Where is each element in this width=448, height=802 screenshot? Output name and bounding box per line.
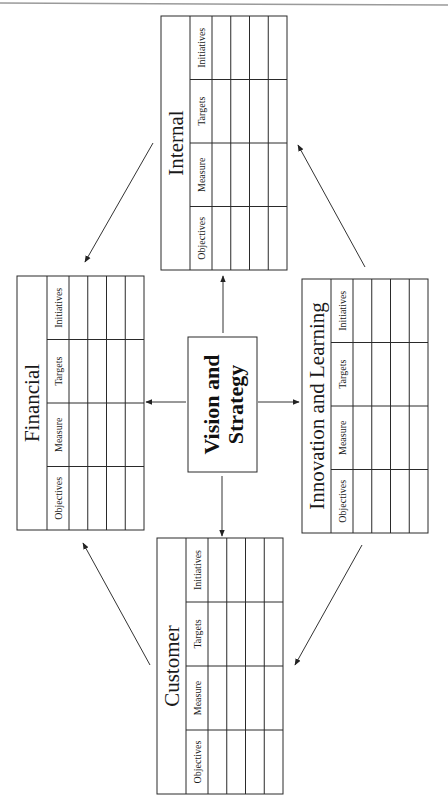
vision-strategy-box: Vision and Strategy	[188, 337, 257, 472]
vision-line-2: Strategy	[223, 365, 248, 444]
perspective-internal: InternalObjectivesMeasureTargetsInitiati…	[161, 16, 287, 270]
column-header-targets: Targets	[196, 97, 207, 126]
perspective-innovation: Innovation and LearningObjectivesMeasure…	[302, 279, 428, 533]
column-header-measure: Measure	[196, 157, 207, 192]
column-header-targets: Targets	[337, 360, 348, 389]
column-header-objectives: Objectives	[192, 741, 203, 784]
arrow-financial-to-customer	[83, 543, 150, 665]
perspective-title: Innovation and Learning	[305, 302, 329, 510]
perspective-customer: CustomerObjectivesMeasureTargetsInitiati…	[157, 538, 283, 794]
column-header-initiatives: Initiatives	[53, 288, 64, 328]
column-header-measure: Measure	[337, 420, 348, 455]
column-header-initiatives: Initiatives	[192, 550, 203, 590]
column-header-targets: Targets	[53, 357, 64, 386]
vision-line-1: Vision and	[199, 354, 224, 454]
column-header-objectives: Objectives	[53, 477, 64, 520]
perspective-title: Internal	[164, 110, 188, 175]
column-header-targets: Targets	[192, 619, 203, 648]
column-header-initiatives: Initiatives	[196, 28, 207, 68]
arrow-innovation-to-internal	[298, 145, 365, 267]
balanced-scorecard-diagram: InternalObjectivesMeasureTargetsInitiati…	[0, 0, 448, 802]
arrow-customer-to-innovation	[295, 545, 362, 665]
column-header-objectives: Objectives	[196, 217, 207, 260]
scan-edge	[0, 3, 448, 5]
column-header-measure: Measure	[53, 417, 64, 452]
column-header-objectives: Objectives	[337, 480, 348, 523]
column-header-measure: Measure	[192, 680, 203, 715]
arrow-internal-to-financial	[85, 143, 153, 262]
perspective-financial: FinancialObjectivesMeasureTargetsInitiat…	[17, 276, 144, 530]
column-header-initiatives: Initiatives	[337, 291, 348, 331]
perspective-title: Customer	[160, 625, 184, 707]
perspective-title: Financial	[20, 364, 44, 442]
